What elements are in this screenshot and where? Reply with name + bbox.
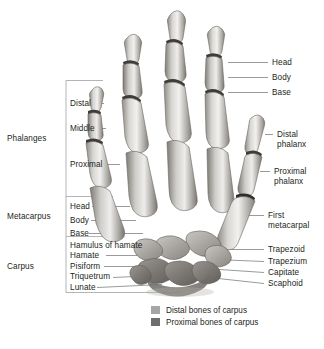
label-proximal-phalanx: Proximal phalanx [274,167,307,186]
label-hamulus-of-hamate: Hamulus of hamate [70,241,142,251]
label-base-right: Base [272,88,291,98]
bone-finger-little [205,26,234,213]
label-base-left: Base [70,229,89,239]
label-lunate: Lunate [70,283,96,293]
legend-label-proximal-carpus: Proximal bones of carpus [166,318,258,327]
figure-page: Phalanges Metacarpus Carpus Distal Middl… [0,0,324,349]
legend-swatch-proximal-carpus [150,317,161,327]
label-head-left: Head [70,202,90,212]
label-capitate: Capitate [268,268,299,278]
label-middle: Middle [70,124,95,134]
label-hamate: Hamate [70,251,99,261]
label-body-right: Body [272,73,291,83]
bones-carpus [130,231,231,297]
group-label-carpus: Carpus [7,262,34,272]
group-label-metacarpus: Metacarpus [7,212,51,222]
legend-item-distal-bones-of-carpus: Distal bones of carpus [150,305,247,315]
label-scaphoid: Scaphoid [268,279,303,289]
bone-finger-ring [164,11,197,211]
label-first-metacarpal: First metacarpal [268,211,309,230]
bone-finger-middle [122,34,157,217]
group-label-phalanges: Phalanges [7,134,46,144]
label-body-left: Body [70,216,89,226]
label-triquetrum: Triquetrum [70,272,110,282]
legend-label-distal-carpus: Distal bones of carpus [166,306,247,315]
label-distal-phalanx: Distal phalanx [277,130,306,149]
carpus-shadow [146,287,214,297]
legend-swatch-distal-carpus [150,305,161,315]
legend-item-proximal-bones-of-carpus: Proximal bones of carpus [150,317,258,327]
label-distal: Distal [70,99,91,109]
label-head-right: Head [272,58,292,68]
label-proximal: Proximal [70,160,103,170]
label-trapezium: Trapezium [268,257,307,267]
label-pisiform: Pisiform [70,262,100,272]
label-trapezoid: Trapezoid [268,245,305,255]
